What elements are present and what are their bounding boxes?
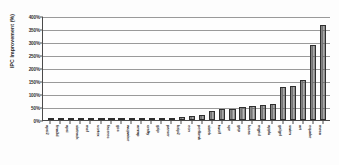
x-tick-cell: wupwise — [126, 121, 136, 165]
x-tick-label: apsi — [65, 125, 70, 133]
x-tick-cell: mesa — [318, 121, 328, 165]
x-tick-cell: twolf — [217, 121, 227, 165]
x-tick-cell: apsi2 — [45, 121, 55, 165]
bar — [68, 118, 74, 120]
x-tick-cell: fma3d — [55, 121, 65, 165]
x-tick-mark — [221, 121, 222, 124]
bar — [280, 87, 286, 120]
x-tick-label: art — [298, 125, 303, 130]
x-tick-mark — [141, 121, 142, 124]
x-tick-mark — [90, 121, 91, 124]
x-tick-label: bzip2 — [176, 125, 181, 135]
bar — [189, 116, 195, 120]
bar-column — [288, 17, 298, 120]
x-tick-label: perlbmk — [197, 125, 202, 140]
x-tick-cell: perlbmk — [197, 121, 207, 165]
bar — [300, 80, 306, 120]
x-tick-label: lucas — [247, 125, 252, 135]
x-tick-mark — [50, 121, 51, 124]
bar — [139, 118, 145, 120]
x-tick-label: equake — [308, 125, 313, 138]
x-tick-mark — [161, 121, 162, 124]
bar-column — [268, 17, 278, 120]
x-tick-cell: galgel — [278, 121, 288, 165]
x-tick-cell: vortex — [96, 121, 106, 165]
bar — [179, 117, 185, 120]
bar — [209, 111, 215, 120]
y-tick-label: 50% — [31, 106, 40, 111]
bar — [310, 45, 316, 120]
x-tick-label: facerec — [106, 125, 111, 138]
x-tick-label: twolf — [217, 125, 222, 134]
x-tick-mark — [282, 121, 283, 124]
y-tick-label: 150% — [29, 80, 40, 85]
x-tick-mark — [312, 121, 313, 124]
x-tick-mark — [181, 121, 182, 124]
x-tick-mark — [262, 121, 263, 124]
x-tick-cell: sixtrk — [207, 121, 217, 165]
x-tick-cell: mcf — [85, 121, 95, 165]
x-tick-label: vpr — [227, 125, 232, 131]
bar — [88, 118, 94, 120]
bar-column — [318, 17, 328, 120]
bar-column — [137, 17, 147, 120]
bar — [239, 107, 245, 120]
bar-column — [66, 17, 76, 120]
x-tick-cell: facerec — [106, 121, 116, 165]
bar-column — [147, 17, 157, 120]
bar-column — [217, 17, 227, 120]
bar — [149, 118, 155, 120]
bar — [219, 109, 225, 120]
bar — [98, 118, 104, 120]
x-tick-mark — [242, 121, 243, 124]
x-tick-cell: applu — [267, 121, 277, 165]
x-tick-mark — [70, 121, 71, 124]
bar — [58, 118, 64, 120]
bar — [199, 115, 205, 120]
bar-column — [157, 17, 167, 120]
bar-column — [46, 17, 56, 120]
bar-column — [187, 17, 197, 120]
bar-column — [117, 17, 127, 120]
y-axis-tick-labels: 400%350%300%250%200%150%100%50%0% — [14, 17, 40, 121]
x-tick-mark — [272, 121, 273, 124]
x-tick-label: crafty — [146, 125, 151, 135]
x-tick-label: apsi2 — [45, 125, 50, 135]
bar-column — [298, 17, 308, 120]
x-tick-label: galgel — [278, 125, 283, 136]
bar — [290, 86, 296, 120]
x-tick-cell: swim — [288, 121, 298, 165]
x-tick-mark — [171, 121, 172, 124]
x-tick-cell: crafty — [146, 121, 156, 165]
bar-column — [237, 17, 247, 120]
y-tick-label: 350% — [29, 28, 40, 33]
x-tick-cell: parser — [166, 121, 176, 165]
x-tick-mark — [252, 121, 253, 124]
y-tick-label: 250% — [29, 54, 40, 59]
chart-figure: IPC Improvement (%) 400%350%300%250%200%… — [0, 0, 339, 165]
x-tick-label: eon — [187, 125, 192, 132]
bar-column — [106, 17, 116, 120]
x-tick-mark — [191, 121, 192, 124]
bar-column — [248, 17, 258, 120]
x-tick-label: swim — [288, 125, 293, 135]
bar-column — [86, 17, 96, 120]
y-tick-label: 300% — [29, 41, 40, 46]
x-tick-label: ammp — [136, 125, 141, 136]
x-tick-cell: vpr — [227, 121, 237, 165]
bar — [118, 118, 124, 120]
x-tick-label: sixtrack — [75, 125, 80, 139]
x-tick-cell: mgrid — [257, 121, 267, 165]
bar-column — [278, 17, 288, 120]
x-tick-label: vortex — [96, 125, 101, 136]
x-tick-mark — [302, 121, 303, 124]
bar-column — [308, 17, 318, 120]
x-tick-mark — [201, 121, 202, 124]
y-tick-label: 100% — [29, 93, 40, 98]
x-tick-cell: gzip — [156, 121, 166, 165]
bar — [169, 118, 175, 120]
x-tick-cell: art — [298, 121, 308, 165]
bar-column — [127, 17, 137, 120]
x-tick-label: wupwise — [126, 125, 131, 141]
bar — [129, 118, 135, 120]
